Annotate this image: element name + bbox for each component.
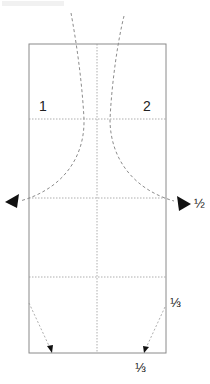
folding-diagram <box>0 0 210 384</box>
left-fold-curve <box>20 13 84 201</box>
fraction-third-right-label: ⅓ <box>170 296 181 309</box>
panel-outline <box>29 44 166 353</box>
bottom-right-diagonal-line <box>146 307 165 348</box>
step-label-1: 1 <box>39 99 47 113</box>
bottom-left-diagonal-line <box>29 303 50 348</box>
bottom-left-arrow-icon <box>47 345 53 353</box>
fraction-half-label: ½ <box>194 197 205 210</box>
step-label-2: 2 <box>143 99 151 113</box>
right-fold-arrow-icon <box>177 196 191 211</box>
fraction-third-bottom-label: ⅓ <box>135 361 146 374</box>
left-fold-arrow-icon <box>5 194 19 208</box>
bottom-right-arrow-icon <box>143 346 149 353</box>
